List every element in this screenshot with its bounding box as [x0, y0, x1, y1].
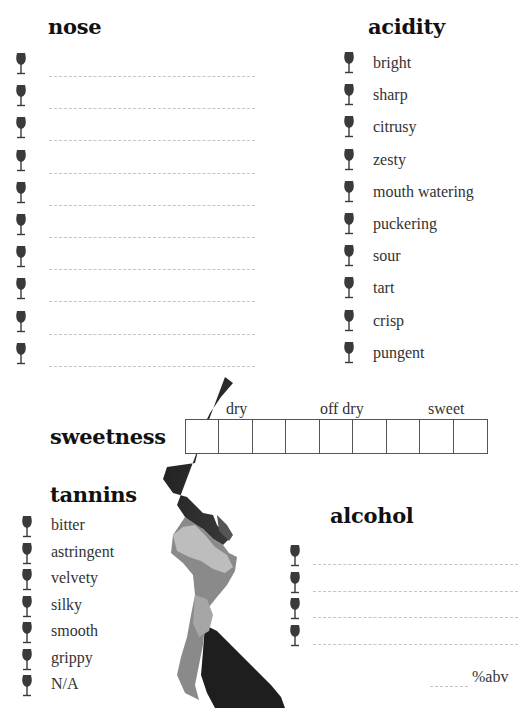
acidity-option[interactable]: sour: [373, 247, 401, 265]
wine-glass-icon: [22, 649, 32, 671]
wine-glass-icon: [344, 213, 354, 235]
nose-note-line[interactable]: [49, 301, 255, 302]
nose-note-line[interactable]: [49, 366, 255, 367]
tannin-option[interactable]: astringent: [51, 543, 114, 561]
alcohol-note-line[interactable]: [313, 644, 518, 645]
nose-note-line[interactable]: [49, 237, 255, 238]
wine-glass-icon: [16, 343, 26, 365]
sweetness-scale: [186, 419, 488, 454]
nose-note-line[interactable]: [49, 173, 255, 174]
nose-note-line[interactable]: [49, 205, 255, 206]
wine-glass-icon: [290, 545, 300, 567]
abv-input-line[interactable]: [430, 686, 468, 687]
wine-glass-icon: [22, 596, 32, 618]
sweetness-box[interactable]: [453, 419, 488, 454]
wine-glass-icon: [16, 117, 26, 139]
acidity-option[interactable]: tart: [373, 279, 394, 297]
acidity-option[interactable]: citrusy: [373, 118, 417, 136]
sweetness-box[interactable]: [218, 419, 253, 454]
wine-glass-icon: [290, 625, 300, 647]
wine-glass-icon: [16, 85, 26, 107]
sweetness-box[interactable]: [252, 419, 287, 454]
wine-glass-icon: [344, 116, 354, 138]
wine-glass-icon: [22, 516, 32, 538]
nose-note-line[interactable]: [49, 269, 255, 270]
acidity-option[interactable]: pungent: [373, 344, 425, 362]
sweetness-box[interactable]: [319, 419, 354, 454]
tannin-option[interactable]: N/A: [51, 675, 79, 693]
scale-label-off-dry: off dry: [320, 400, 364, 418]
wine-glass-icon: [22, 622, 32, 644]
tannin-option[interactable]: smooth: [51, 622, 98, 640]
wine-glass-icon: [16, 278, 26, 300]
acidity-option[interactable]: zesty: [373, 151, 406, 169]
wine-glass-icon: [22, 543, 32, 565]
acidity-option[interactable]: bright: [373, 54, 411, 72]
wine-glass-icon: [344, 181, 354, 203]
sweetness-heading: sweetness: [50, 424, 166, 449]
wine-glass-icon: [22, 675, 32, 697]
nose-heading: nose: [48, 14, 101, 39]
wine-glass-icon: [344, 52, 354, 74]
acidity-option[interactable]: puckering: [373, 215, 437, 233]
tannin-option[interactable]: velvety: [51, 569, 98, 587]
wine-glass-icon: [290, 598, 300, 620]
nose-note-line[interactable]: [49, 140, 255, 141]
nose-note-line[interactable]: [49, 76, 255, 77]
sweetness-box[interactable]: [352, 419, 387, 454]
acidity-option[interactable]: crisp: [373, 312, 404, 330]
alcohol-note-line[interactable]: [313, 591, 518, 592]
wine-glass-icon: [344, 342, 354, 364]
acidity-option[interactable]: sharp: [373, 86, 408, 104]
scale-label-sweet: sweet: [428, 400, 464, 418]
sweetness-box[interactable]: [386, 419, 421, 454]
wine-glass-icon: [22, 569, 32, 591]
wine-glass-icon: [16, 53, 26, 75]
nose-note-line[interactable]: [49, 108, 255, 109]
tannin-option[interactable]: grippy: [51, 649, 93, 667]
alcohol-heading: alcohol: [330, 503, 414, 528]
sweetness-box[interactable]: [419, 419, 454, 454]
abv-label: %abv: [472, 668, 508, 686]
alcohol-note-line[interactable]: [313, 617, 518, 618]
wine-glass-icon: [344, 149, 354, 171]
wine-glass-icon: [16, 246, 26, 268]
alcohol-note-line[interactable]: [313, 564, 518, 565]
sweetness-box[interactable]: [185, 419, 220, 454]
wine-glass-icon: [344, 310, 354, 332]
nose-note-line[interactable]: [49, 334, 255, 335]
acidity-option[interactable]: mouth watering: [373, 183, 474, 201]
acidity-heading: acidity: [368, 14, 445, 39]
scale-label-dry: dry: [226, 400, 247, 418]
wine-glass-icon: [16, 150, 26, 172]
tannins-heading: tannins: [50, 482, 137, 507]
wine-glass-icon: [344, 245, 354, 267]
tannin-option[interactable]: bitter: [51, 516, 85, 534]
wine-glass-icon: [344, 277, 354, 299]
tannin-option[interactable]: silky: [51, 596, 82, 614]
wine-glass-icon: [344, 84, 354, 106]
sweetness-box[interactable]: [285, 419, 320, 454]
wine-glass-icon: [290, 572, 300, 594]
wine-glass-icon: [16, 214, 26, 236]
wine-glass-icon: [16, 311, 26, 333]
wine-glass-icon: [16, 182, 26, 204]
